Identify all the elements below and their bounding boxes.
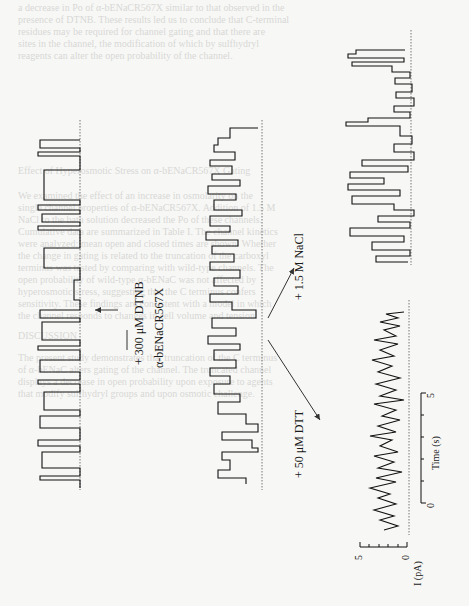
figure-canvas (0, 0, 469, 606)
time-scale-label: Time (s) (430, 436, 441, 470)
label-construct: α-bENaCR567X (152, 288, 167, 368)
time-scale-max: 5 (425, 393, 436, 398)
label-dtt: + 50 μM DTT (292, 410, 307, 478)
current-scale-min: 0 (400, 555, 411, 560)
trace-control (206, 120, 262, 490)
time-scale-min: 0 (425, 503, 436, 508)
arrow-to-dtt (268, 340, 320, 420)
trace-dtt (370, 300, 409, 535)
time-scale-bar (421, 393, 426, 503)
label-dtnb: + 300 μM DTNB (132, 281, 147, 365)
arrow-to-nacl (268, 268, 294, 318)
current-scale-bar (360, 542, 407, 547)
label-nacl: + 1.5 M NaCl (292, 233, 307, 300)
current-scale-max: 5 (353, 555, 364, 560)
trace-dtnb (38, 120, 80, 490)
current-scale-label: I (pA) (412, 561, 423, 586)
trace-nacl (346, 30, 414, 265)
